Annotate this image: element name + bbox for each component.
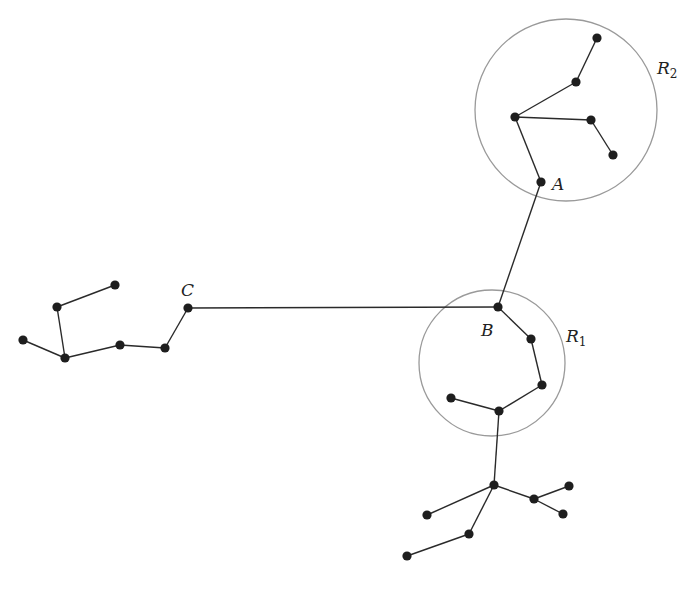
edge <box>515 117 591 120</box>
labels: A B C R1 R2 <box>181 58 677 349</box>
edge <box>427 485 494 515</box>
label-r2: R2 <box>656 58 677 81</box>
label-a: A <box>550 174 564 194</box>
node-l1 <box>160 343 169 352</box>
region-circle-r1 <box>419 290 565 436</box>
node-b <box>493 302 502 311</box>
label-r2-main: R <box>656 58 670 78</box>
label-b: B <box>480 320 494 340</box>
edge <box>515 82 576 117</box>
node-r1c <box>446 393 455 402</box>
edge <box>451 398 499 411</box>
node-r1d <box>494 406 503 415</box>
edge <box>576 38 597 82</box>
label-r1: R1 <box>565 326 586 349</box>
nodes <box>18 33 617 560</box>
edge <box>65 345 120 358</box>
diagram-svg: A B C R1 R2 <box>0 0 694 591</box>
node-r2b <box>571 77 580 86</box>
edge <box>591 120 613 155</box>
node-r2e <box>608 150 617 159</box>
node-l5 <box>52 302 61 311</box>
edge <box>407 534 469 556</box>
label-r2-subscript: 2 <box>670 67 678 81</box>
edge <box>57 307 65 358</box>
edge <box>469 485 494 534</box>
edge <box>499 385 542 411</box>
edge <box>120 345 165 348</box>
node-b4 <box>564 481 573 490</box>
edge <box>498 307 531 339</box>
label-r1-subscript: 1 <box>579 335 587 349</box>
node-r2c <box>510 112 519 121</box>
node-l3 <box>60 353 69 362</box>
node-l4 <box>18 335 27 344</box>
edge <box>515 117 541 182</box>
node-r2d <box>586 115 595 124</box>
node-r1b <box>537 380 546 389</box>
graph-diagram: A B C R1 R2 <box>0 0 694 591</box>
node-l6 <box>110 280 119 289</box>
node-b3 <box>529 494 538 503</box>
edge <box>534 486 569 499</box>
edge <box>531 339 542 385</box>
node-b6 <box>464 529 473 538</box>
node-b7 <box>402 551 411 560</box>
node-l2 <box>115 340 124 349</box>
node-r1a <box>526 334 535 343</box>
edge <box>494 485 534 499</box>
node-b5 <box>558 509 567 518</box>
edge <box>23 340 65 358</box>
edge <box>494 411 499 485</box>
node-c <box>183 303 192 312</box>
edge <box>534 499 563 514</box>
edge <box>188 307 498 308</box>
edge <box>57 285 115 307</box>
edge <box>498 182 541 307</box>
region-circles <box>419 19 657 436</box>
node-b1 <box>489 480 498 489</box>
node-r2a <box>592 33 601 42</box>
node-b2 <box>422 510 431 519</box>
region-circle-r2 <box>475 19 657 201</box>
label-c: C <box>181 280 194 300</box>
label-r1-main: R <box>565 326 579 346</box>
node-a <box>536 177 545 186</box>
edge <box>165 308 188 348</box>
